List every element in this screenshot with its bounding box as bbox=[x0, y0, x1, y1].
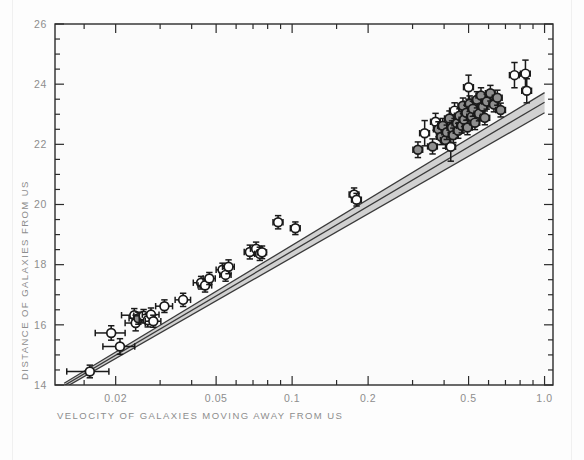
x-axis-tick-labels: 0.020.050.10.20.51.0 bbox=[104, 392, 553, 404]
data-point-marker bbox=[179, 295, 188, 304]
x-axis-title: VELOCITY OF GALAXIES MOVING AWAY FROM US bbox=[57, 410, 343, 421]
data-point-marker bbox=[522, 86, 531, 95]
data-point-marker bbox=[464, 83, 473, 92]
data-point-marker bbox=[352, 195, 361, 204]
x-tick-label: 0.02 bbox=[104, 392, 127, 404]
data-point-marker bbox=[224, 262, 233, 271]
data-point-marker bbox=[428, 142, 437, 151]
data-point-marker bbox=[85, 367, 94, 376]
data-point-marker bbox=[291, 224, 300, 233]
x-tick-label: 0.05 bbox=[205, 392, 228, 404]
data-point-marker bbox=[414, 145, 423, 154]
data-point-marker bbox=[258, 248, 267, 257]
y-axis-tick-labels: 14161820222426 bbox=[34, 18, 47, 391]
data-point-marker bbox=[205, 274, 214, 283]
figure-page: 0.020.050.10.20.51.0 14161820222426 VELO… bbox=[0, 0, 584, 460]
data-point-marker bbox=[420, 129, 429, 138]
y-tick-label: 22 bbox=[34, 138, 47, 150]
data-point-marker bbox=[116, 342, 125, 351]
data-point-marker bbox=[107, 329, 116, 338]
y-tick-label: 26 bbox=[34, 18, 47, 30]
x-tick-label: 0.1 bbox=[284, 392, 300, 404]
data-point-marker bbox=[496, 106, 505, 115]
plot-background bbox=[55, 24, 553, 385]
scatter-plot-svg: 0.020.050.10.20.51.0 14161820222426 VELO… bbox=[0, 0, 584, 460]
x-tick-label: 0.5 bbox=[460, 392, 476, 404]
data-point-marker bbox=[446, 142, 455, 151]
data-point-marker bbox=[149, 317, 158, 326]
y-tick-label: 20 bbox=[34, 198, 47, 210]
data-point-marker bbox=[493, 93, 502, 102]
hubble-diagram-figure: 0.020.050.10.20.51.0 14161820222426 VELO… bbox=[0, 0, 584, 460]
x-tick-label: 1.0 bbox=[536, 392, 552, 404]
y-axis-title: DISTANCE OF GALAXIES FROM US bbox=[19, 180, 30, 380]
data-point-marker bbox=[480, 113, 489, 122]
y-tick-label: 16 bbox=[34, 319, 47, 331]
data-point-marker bbox=[160, 302, 169, 311]
y-tick-label: 18 bbox=[34, 258, 47, 270]
y-tick-label: 14 bbox=[34, 379, 47, 391]
data-point-marker bbox=[274, 218, 283, 227]
y-tick-label: 24 bbox=[34, 78, 47, 90]
data-point-marker bbox=[471, 118, 480, 127]
data-point-marker bbox=[510, 71, 519, 80]
x-tick-label: 0.2 bbox=[360, 392, 376, 404]
data-point-marker bbox=[521, 69, 530, 78]
